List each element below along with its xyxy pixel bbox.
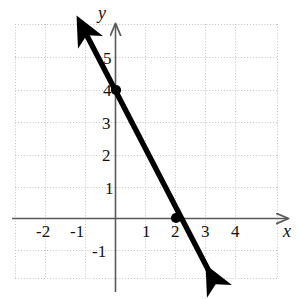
x-tick-label-3: 3	[201, 223, 210, 240]
y-tick-label-1: 1	[105, 180, 114, 197]
y-tick-label-3: 3	[102, 115, 111, 132]
x-tick-label-1: 1	[142, 223, 151, 240]
y-tick-label-neg1: -1	[92, 243, 106, 260]
y-axis-label: y	[98, 4, 106, 22]
point-y-intercept	[111, 85, 121, 95]
y-tick-label-4: 4	[103, 82, 112, 99]
x-tick-label-neg2: -2	[36, 223, 50, 240]
x-axis-label: x	[283, 222, 291, 240]
coordinate-graph-figure: 5 4 3 2 1 -1 -2 -1 1 2 3 4 y x	[0, 0, 299, 299]
x-tick-label-2: 2	[171, 223, 180, 240]
x-tick-label-4: 4	[231, 223, 240, 240]
y-tick-label-2: 2	[102, 147, 111, 164]
y-tick-label-5: 5	[103, 50, 112, 67]
plot-canvas	[0, 0, 299, 299]
x-tick-label-neg1: -1	[70, 223, 84, 240]
